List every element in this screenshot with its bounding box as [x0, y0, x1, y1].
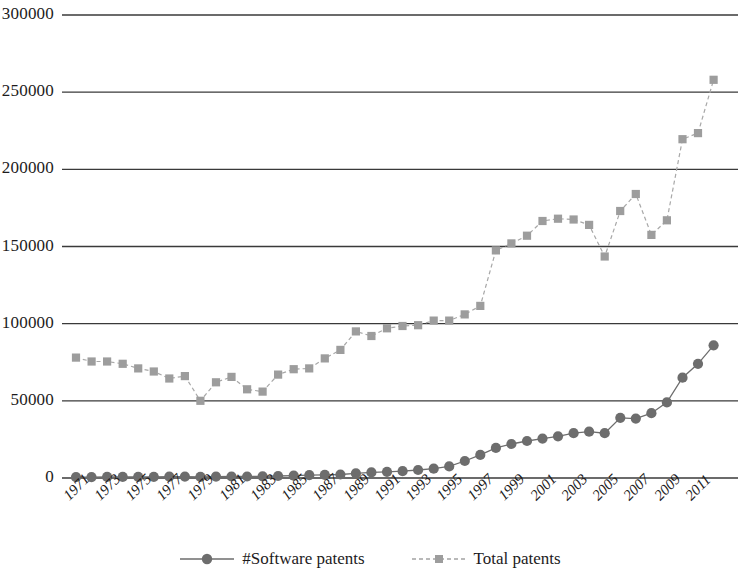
legend-label-total-patents: Total patents [474, 549, 561, 569]
data-point-square [181, 372, 189, 380]
y-axis-tick-label: 250000 [2, 81, 54, 101]
legend-item-software-patents[interactable]: #Software patents [179, 549, 364, 569]
data-point-circle [522, 436, 532, 446]
data-point-circle [615, 413, 625, 423]
data-point-square [554, 215, 562, 223]
data-point-square [678, 135, 686, 143]
data-point-square [492, 246, 500, 254]
gridlines-group [62, 15, 738, 478]
data-point-circle [677, 373, 687, 383]
data-point-square [336, 346, 344, 354]
data-point-circle [491, 443, 501, 453]
data-point-circle [444, 461, 454, 471]
data-point-circle [569, 428, 579, 438]
circle-marker-icon [179, 552, 235, 566]
data-point-square [367, 332, 375, 340]
data-point-square [461, 310, 469, 318]
data-point-square [585, 221, 593, 229]
data-point-square [538, 217, 546, 225]
data-point-square [601, 252, 609, 260]
data-point-circle [506, 439, 516, 449]
data-point-square [476, 302, 484, 310]
data-point-square [243, 385, 251, 393]
data-point-square [445, 317, 453, 325]
data-point-square [227, 373, 235, 381]
data-point-square [72, 354, 80, 362]
data-point-square [88, 357, 96, 365]
data-point-circle [662, 397, 672, 407]
y-axis-tick-label: 200000 [2, 158, 54, 178]
y-axis-tick-label: 50000 [11, 390, 55, 410]
data-point-square [663, 216, 671, 224]
series-line [76, 80, 714, 401]
data-point-circle [537, 434, 547, 444]
square-marker-icon [411, 552, 467, 566]
data-point-square [570, 215, 578, 223]
data-point-circle [709, 340, 719, 350]
data-point-square [414, 321, 422, 329]
series-line [76, 345, 714, 477]
data-point-square [523, 232, 531, 240]
data-point-square [321, 354, 329, 362]
y-axis-tick-label: 300000 [2, 4, 54, 24]
data-point-circle [646, 408, 656, 418]
data-point-square [134, 364, 142, 372]
data-point-circle [553, 431, 563, 441]
patents-line-chart: 050000100000150000200000250000300000 197… [0, 0, 740, 577]
data-point-square [274, 371, 282, 379]
data-point-circle [398, 466, 408, 476]
data-point-square [352, 327, 360, 335]
series-group [71, 76, 719, 483]
data-point-square [305, 364, 313, 372]
data-point-square [647, 231, 655, 239]
data-point-circle [460, 456, 470, 466]
data-point-circle [631, 414, 641, 424]
y-axis-tick-label: 150000 [2, 236, 54, 256]
data-point-square [165, 374, 173, 382]
data-point-square [150, 367, 158, 375]
data-point-circle [600, 428, 610, 438]
data-point-square [196, 397, 204, 405]
data-point-square [632, 190, 640, 198]
data-point-square [430, 317, 438, 325]
data-point-circle [366, 467, 376, 477]
data-point-circle [429, 464, 439, 474]
data-point-square [507, 239, 515, 247]
data-point-circle [475, 450, 485, 460]
data-point-square [710, 76, 718, 84]
data-point-square [259, 388, 267, 396]
data-point-square [694, 129, 702, 137]
data-point-circle [584, 427, 594, 437]
data-point-square [290, 365, 298, 373]
data-point-circle [693, 359, 703, 369]
chart-legend: #Software patents Total patents [0, 549, 740, 569]
y-axis-tick-label: 0 [45, 467, 54, 487]
legend-label-software-patents: #Software patents [242, 549, 364, 569]
data-point-square [103, 357, 111, 365]
data-point-square [119, 360, 127, 368]
legend-item-total-patents[interactable]: Total patents [411, 549, 561, 569]
data-point-square [212, 378, 220, 386]
data-point-square [383, 324, 391, 332]
data-point-square [398, 322, 406, 330]
y-axis-tick-label: 100000 [2, 313, 54, 333]
data-point-square [616, 207, 624, 215]
